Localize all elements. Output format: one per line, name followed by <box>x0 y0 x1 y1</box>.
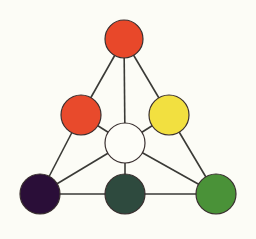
mid-left-red-circle <box>61 95 101 135</box>
bottom-left-purple-circle <box>20 174 60 214</box>
color-nodes <box>20 20 236 214</box>
color-triangle-diagram <box>0 0 256 239</box>
bottom-center-darkgreen-circle <box>105 174 145 214</box>
mid-right-yellow-circle <box>149 95 189 135</box>
diagram-canvas <box>0 0 256 239</box>
center-white-circle <box>105 123 145 163</box>
bottom-right-green-circle <box>196 174 236 214</box>
top-red-circle <box>105 20 143 58</box>
